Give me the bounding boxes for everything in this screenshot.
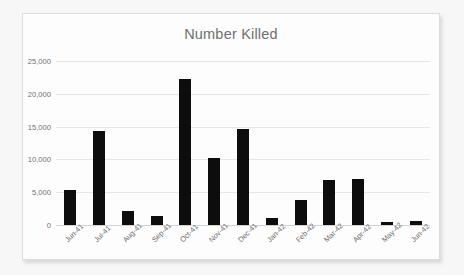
bar-slot: Jun-41 [56,61,85,225]
bar-aug-41[interactable] [122,211,134,225]
y-axis-tick-label: 25,000 [28,57,51,66]
bar-slot: Sep-41 [142,61,171,225]
bar-slot: Dec-41 [229,61,258,225]
bar-jun-41[interactable] [64,190,76,225]
chart-panel[interactable]: Number Killed 05,00010,00015,00020,00025… [22,13,440,260]
x-axis-tick-label: Jul-41 [92,224,113,245]
bar-slot: Aug-41 [114,61,143,225]
bar-sep-41[interactable] [151,216,163,226]
bar-series: Jun-41Jul-41Aug-41Sep-41Oct-41Nov-41Dec-… [56,61,430,225]
y-axis-tick-label: 20,000 [28,89,51,98]
bar-slot: Oct-41 [171,61,200,225]
bar-jan-42[interactable] [266,218,278,225]
bar-nov-41[interactable] [208,158,220,225]
bar-slot: Mar-42 [315,61,344,225]
bar-slot: Apr-42 [344,61,373,225]
bar-slot: Nov-41 [200,61,229,225]
bar-dec-41[interactable] [237,129,249,225]
screenshot-page: Number Killed 05,00010,00015,00020,00025… [0,0,464,275]
y-axis-tick-label: 15,000 [28,122,51,131]
bar-feb-42[interactable] [295,200,307,225]
bar-slot: Jun-42 [401,61,430,225]
bar-may-42[interactable] [381,222,393,225]
bar-slot: Feb-42 [286,61,315,225]
bar-oct-41[interactable] [179,79,191,225]
plot-area: 05,00010,00015,00020,00025,000 Jun-41Jul… [56,61,430,225]
chart-title: Number Killed [23,26,439,42]
bar-jun-42[interactable] [410,221,422,225]
y-axis-tick-label: 5,000 [32,188,51,197]
bar-slot: May-42 [372,61,401,225]
bar-apr-42[interactable] [352,179,364,225]
bar-slot: Jan-42 [257,61,286,225]
bar-jul-41[interactable] [93,131,105,225]
bar-slot: Jul-41 [85,61,114,225]
bar-mar-42[interactable] [323,180,335,225]
gridline-0 [56,225,430,226]
y-axis-tick-label: 10,000 [28,155,51,164]
y-axis-tick-label: 0 [47,221,51,230]
